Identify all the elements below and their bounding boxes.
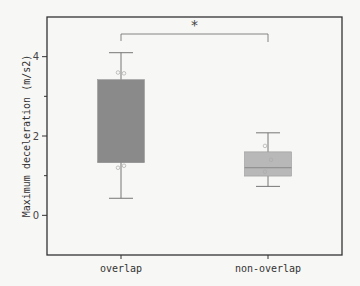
x-axis: overlapnon-overlap bbox=[100, 255, 301, 274]
y-tick-label: 0 bbox=[33, 210, 39, 221]
box-plot: 024 overlapnon-overlap * Maximum deceler… bbox=[0, 0, 360, 286]
y-axis-title: Maximum deceleration (m/s2) bbox=[21, 55, 32, 218]
y-axis: 024 bbox=[33, 51, 47, 221]
data-point bbox=[116, 71, 120, 75]
data-point bbox=[122, 164, 126, 168]
box-non-overlap bbox=[245, 133, 292, 187]
boxes bbox=[98, 53, 292, 199]
box-overlap bbox=[98, 53, 145, 199]
x-tick-label: non-overlap bbox=[235, 263, 301, 274]
significance-annotation: * bbox=[121, 17, 268, 42]
box-iqr bbox=[98, 80, 145, 163]
data-point bbox=[263, 144, 267, 148]
significance-bracket bbox=[121, 34, 268, 42]
plot-frame bbox=[47, 17, 342, 255]
data-point bbox=[116, 166, 120, 170]
box-iqr bbox=[245, 152, 292, 176]
x-tick-label: overlap bbox=[100, 263, 142, 274]
y-tick-label: 4 bbox=[33, 51, 39, 62]
data-point bbox=[122, 72, 126, 76]
significance-star: * bbox=[191, 17, 198, 33]
y-tick-label: 2 bbox=[33, 131, 39, 142]
